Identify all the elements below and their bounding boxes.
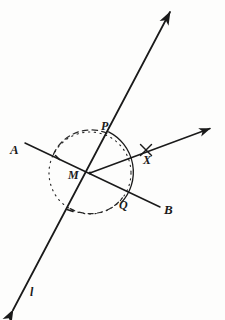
geometry-figure: A M P Q B X l [0,0,225,320]
geometry-canvas [0,0,225,320]
construction-circle-dash-lower [70,198,122,214]
label-point-a: A [10,143,19,156]
label-point-p: P [101,120,108,132]
label-point-q: Q [119,199,128,211]
point-m-dot [89,172,92,175]
label-point-x: X [143,154,151,166]
label-line-l: l [30,286,33,298]
label-point-m: M [68,169,79,181]
line-AB [25,143,160,207]
label-point-b: B [164,203,173,216]
